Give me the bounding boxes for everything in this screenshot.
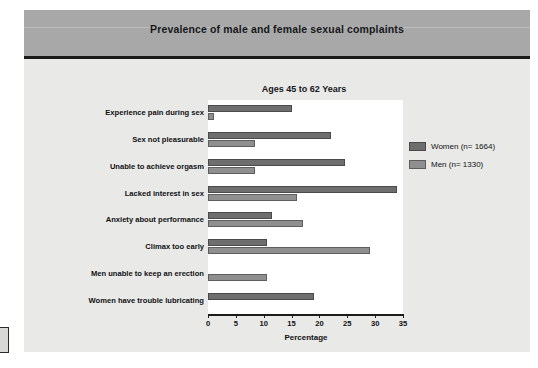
chart-figure: Prevalence of male and female sexual com…	[24, 10, 530, 352]
x-axis-tick	[375, 314, 376, 318]
x-axis-tick-label: 30	[364, 319, 386, 328]
x-axis-title: Percentage	[208, 333, 404, 342]
x-axis-tick-label: 25	[336, 319, 358, 328]
x-axis-tick	[236, 314, 237, 318]
bar-women	[208, 132, 331, 139]
bar-men	[208, 274, 267, 281]
bar-women	[208, 159, 345, 166]
bar-men	[208, 113, 214, 120]
x-axis-tick-label: 0	[197, 319, 219, 328]
x-axis-tick-label: 35	[392, 319, 414, 328]
chart-subtitle: Ages 45 to 62 Years	[204, 84, 404, 94]
bar-women	[208, 186, 397, 193]
plot-area	[208, 100, 403, 314]
category-label: Men unable to keep an erection	[34, 269, 204, 278]
bar-men	[208, 247, 370, 254]
bar-women	[208, 293, 314, 300]
chart-title: Prevalence of male and female sexual com…	[24, 23, 530, 35]
category-label: Climax too early	[34, 242, 204, 251]
category-axis-labels: Experience pain during sexSex not pleasu…	[32, 100, 204, 314]
bar-men	[208, 194, 297, 201]
legend-label: Women (n= 1664)	[431, 142, 495, 151]
legend-item-women: Women (n= 1664)	[409, 142, 524, 151]
legend-label: Men (n= 1330)	[431, 160, 483, 169]
chart-body: Ages 45 to 62 Years Experience pain duri…	[24, 59, 530, 352]
category-label: Unable to achieve orgasm	[34, 162, 204, 171]
category-label: Sex not pleasurable	[34, 135, 204, 144]
bar-women	[208, 212, 272, 219]
bar-women	[208, 239, 267, 246]
chart-legend: Women (n= 1664)Men (n= 1330)	[409, 142, 524, 178]
legend-swatch-men	[409, 160, 426, 169]
x-axis-tick	[264, 314, 265, 318]
legend-swatch-women	[409, 142, 426, 151]
x-axis-tick-label: 5	[225, 319, 247, 328]
x-axis-tick	[347, 314, 348, 318]
category-label: Experience pain during sex	[34, 108, 204, 117]
bar-men	[208, 220, 303, 227]
category-label: Lacked interest in sex	[34, 189, 204, 198]
x-axis-tick	[319, 314, 320, 318]
x-axis-tick-label: 20	[308, 319, 330, 328]
edge-artifact	[0, 327, 9, 353]
x-axis-tick	[403, 314, 404, 318]
title-banner: Prevalence of male and female sexual com…	[24, 10, 530, 56]
x-axis-tick-label: 10	[253, 319, 275, 328]
x-axis-tick-label: 15	[281, 319, 303, 328]
category-label: Anxiety about performance	[34, 215, 204, 224]
bar-men	[208, 167, 255, 174]
legend-item-men: Men (n= 1330)	[409, 160, 524, 169]
x-axis-tick	[292, 314, 293, 318]
bar-women	[208, 105, 292, 112]
x-axis-tick	[208, 314, 209, 318]
bar-men	[208, 140, 255, 147]
category-label: Women have trouble lubricating	[34, 296, 204, 305]
